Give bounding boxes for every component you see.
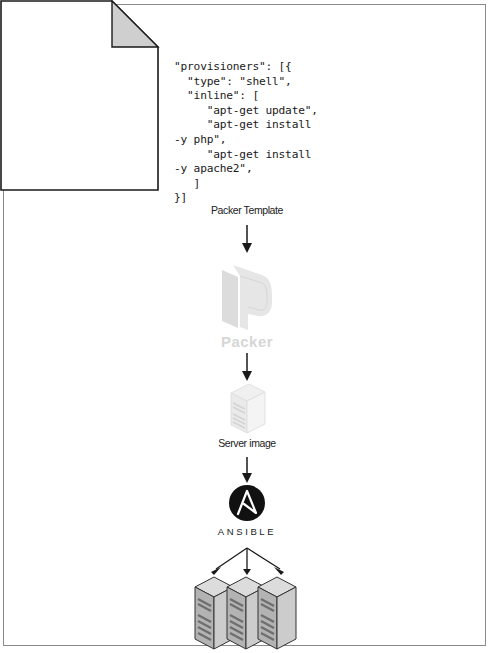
server-cluster-icon — [0, 0, 494, 653]
